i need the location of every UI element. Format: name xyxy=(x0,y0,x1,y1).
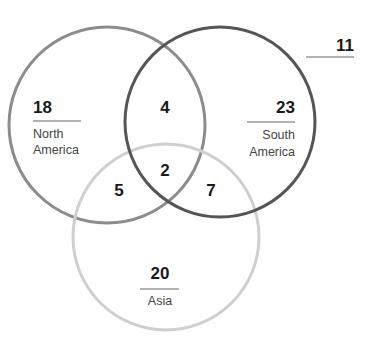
south-america-label-2: America xyxy=(249,145,295,159)
north-south-count: 4 xyxy=(160,98,170,117)
south-america-label-1: South xyxy=(262,128,295,142)
north-america-count: 18 xyxy=(33,98,52,117)
asia-label: Asia xyxy=(148,294,172,308)
south-america-count: 23 xyxy=(276,98,295,117)
venn-diagram: 18 North America 23 South America 20 Asi… xyxy=(0,0,374,341)
asia-count: 20 xyxy=(151,264,170,283)
all-three-count: 2 xyxy=(160,161,169,180)
outside-count: 11 xyxy=(336,36,354,55)
north-america-label-2: America xyxy=(33,143,79,157)
north-asia-count: 5 xyxy=(114,181,123,200)
south-asia-count: 7 xyxy=(206,181,215,200)
circle-north-america xyxy=(9,27,205,223)
north-america-label-1: North xyxy=(33,127,64,141)
